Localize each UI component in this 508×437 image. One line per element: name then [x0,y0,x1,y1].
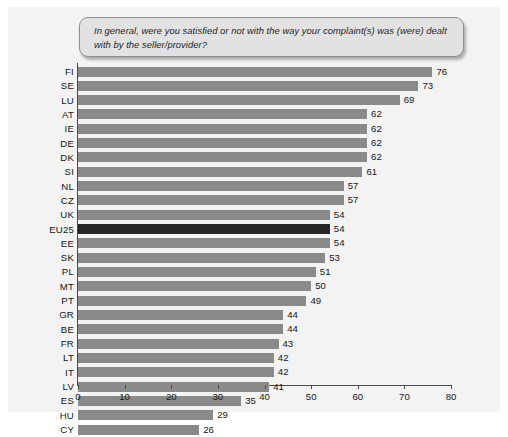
bar-lu [78,95,400,105]
bar-si [78,167,362,177]
bar-row: FR43 [0,337,508,351]
x-tick-20 [171,385,172,389]
category-label-ee: EE [3,238,74,249]
bar-hu [78,410,213,420]
bar-row: IT42 [0,366,508,380]
category-label-at: AT [3,109,74,120]
x-tick-label-30: 30 [203,391,233,402]
bar-value-fi: 76 [436,66,447,77]
bar-row: LT42 [0,351,508,365]
category-label-se: SE [3,80,74,91]
x-tick-60 [358,385,359,389]
bar-value-pl: 51 [320,266,331,277]
category-label-pt: PT [3,295,74,306]
bar-cz [78,195,344,205]
bar-nl [78,181,344,191]
bar-value-uk: 54 [334,209,345,220]
bar-row: CZ57 [0,194,508,208]
category-label-nl: NL [3,181,74,192]
x-tick-label-80: 80 [436,391,466,402]
category-label-sk: SK [3,252,74,263]
category-label-cz: CZ [3,195,74,206]
x-tick-30 [218,385,219,389]
bar-value-mt: 50 [315,280,326,291]
bar-row: SI61 [0,165,508,179]
bar-lt [78,353,274,363]
bar-row: EE54 [0,237,508,251]
category-label-uk: UK [3,209,74,220]
category-label-be: BE [3,324,74,335]
bar-be [78,324,283,334]
bar-sk [78,253,325,263]
bar-row: GR44 [0,308,508,322]
bar-dk [78,152,367,162]
bar-row: SK53 [0,251,508,265]
category-label-dk: DK [3,152,74,163]
category-label-fi: FI [3,66,74,77]
bar-de [78,138,367,148]
bar-value-lu: 69 [404,94,415,105]
bar-row: DE62 [0,137,508,151]
bar-value-gr: 44 [287,309,298,320]
bar-row: SE73 [0,79,508,93]
bar-value-ie: 62 [371,123,382,134]
x-tick-label-10: 10 [110,391,140,402]
category-label-cy: CY [3,424,74,435]
category-label-de: DE [3,138,74,149]
category-label-hu: HU [3,410,74,421]
bar-row: PL51 [0,265,508,279]
bar-ee [78,238,330,248]
bar-value-eu25: 54 [334,223,345,234]
bar-ie [78,124,367,134]
x-tick-0 [78,385,79,389]
bar-row: DK62 [0,151,508,165]
bar-value-pt: 49 [310,295,321,306]
bar-fi [78,67,432,77]
category-label-pl: PL [3,266,74,277]
category-label-si: SI [3,166,74,177]
bar-row: PT49 [0,294,508,308]
bar-row: IE62 [0,122,508,136]
category-label-eu25: EU25 [3,224,74,235]
bar-value-hu: 29 [217,409,228,420]
category-label-mt: MT [3,281,74,292]
x-tick-label-20: 20 [156,391,186,402]
x-tick-10 [125,385,126,389]
category-label-lt: LT [3,352,74,363]
bar-row: EU2554 [0,223,508,237]
bar-row: CY26 [0,423,508,437]
bar-row: UK54 [0,208,508,222]
bar-row: FI76 [0,65,508,79]
bar-row: NL57 [0,180,508,194]
bar-value-sk: 53 [329,252,340,263]
bar-row: AT62 [0,108,508,122]
bar-pl [78,267,316,277]
bar-value-cy: 26 [203,424,214,435]
bar-row: HU29 [0,409,508,423]
bar-it [78,367,274,377]
category-label-ie: IE [3,123,74,134]
x-tick-label-60: 60 [343,391,373,402]
bar-value-dk: 62 [371,151,382,162]
bar-mt [78,281,311,291]
bar-uk [78,210,330,220]
x-tick-label-70: 70 [389,391,419,402]
bar-se [78,81,418,91]
bar-cy [78,425,199,435]
bar-row: BE44 [0,323,508,337]
bar-pt [78,296,306,306]
bar-value-it: 42 [278,366,289,377]
x-tick-label-40: 40 [250,391,280,402]
bar-value-lv: 41 [273,381,284,392]
bar-value-be: 44 [287,323,298,334]
bar-fr [78,339,279,349]
category-label-fr: FR [3,338,74,349]
bar-value-de: 62 [371,137,382,148]
bar-gr [78,310,283,320]
bar-row: MT50 [0,280,508,294]
bar-row: LU69 [0,94,508,108]
x-tick-50 [311,385,312,389]
bar-value-cz: 57 [348,194,359,205]
bar-value-se: 73 [422,80,433,91]
